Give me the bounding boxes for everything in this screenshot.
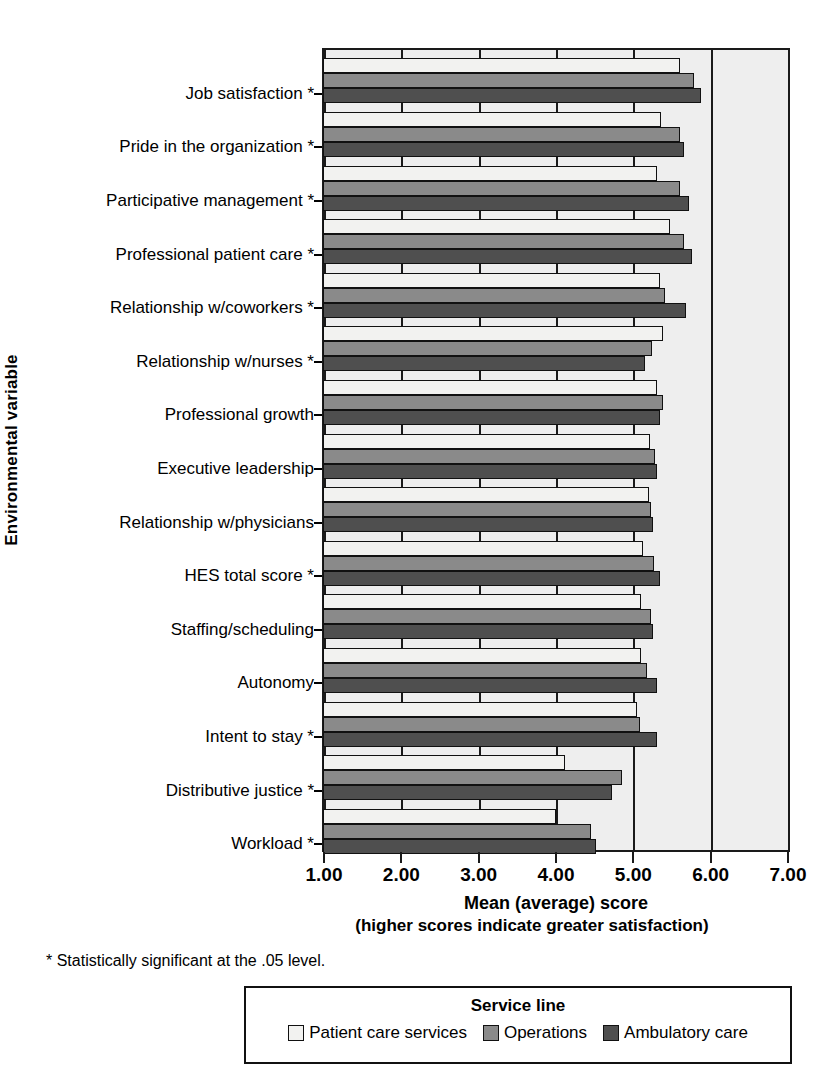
y-axis-tick [314, 575, 322, 577]
plot-area [322, 48, 790, 852]
bar [323, 770, 622, 785]
bar [323, 380, 657, 395]
bar [323, 166, 657, 181]
bar [323, 464, 657, 479]
category-label: Relationship w/physicians [119, 514, 314, 532]
bar [323, 702, 637, 717]
x-axis-tick [632, 852, 634, 863]
x-axis-tick-label: 7.00 [770, 864, 807, 886]
y-axis-tick [314, 468, 322, 470]
y-axis-tick [314, 790, 322, 792]
bar [323, 556, 654, 571]
x-axis-tick [323, 852, 325, 863]
bar [323, 249, 692, 264]
category-label: Job satisfaction * [185, 85, 314, 103]
legend-swatch-icon [288, 1025, 304, 1041]
bar [323, 717, 640, 732]
legend: Service line Patient care servicesOperat… [244, 986, 792, 1064]
bar [323, 303, 686, 318]
category-label: Distributive justice * [166, 782, 314, 800]
x-axis-tick [710, 852, 712, 863]
bar [323, 449, 655, 464]
x-axis-tick-label: 5.00 [615, 864, 652, 886]
bar [323, 663, 647, 678]
bar [323, 88, 701, 103]
bar [323, 824, 591, 839]
bar [323, 410, 660, 425]
bar [323, 785, 612, 800]
bar [323, 234, 684, 249]
y-axis-tick [314, 200, 322, 202]
bar [323, 678, 657, 693]
y-axis-tick [314, 682, 322, 684]
legend-title: Service line [246, 996, 790, 1016]
legend-item-label: Patient care services [309, 1023, 467, 1043]
category-label: Intent to stay * [205, 728, 314, 746]
y-axis-title: Environmental variable [2, 300, 22, 600]
bar [323, 395, 663, 410]
bar [323, 571, 660, 586]
category-label: Relationship w/coworkers * [110, 299, 314, 317]
x-axis-tick [787, 852, 789, 863]
bar [323, 73, 694, 88]
bar-chart-figure: Environmental variable Job satisfaction … [0, 0, 838, 1081]
y-axis-tick [314, 414, 322, 416]
y-axis-tick [314, 307, 322, 309]
bar [323, 624, 653, 639]
x-axis-tick-label: 3.00 [460, 864, 497, 886]
x-axis-tick [400, 852, 402, 863]
legend-swatch-icon [483, 1025, 499, 1041]
bar [323, 196, 689, 211]
bar [323, 219, 670, 234]
x-axis-tick-label: 4.00 [538, 864, 575, 886]
y-axis-tick [314, 254, 322, 256]
bar [323, 326, 663, 341]
x-axis-tick-label: 1.00 [306, 864, 343, 886]
y-axis-tick [314, 361, 322, 363]
legend-item[interactable]: Patient care services [288, 1023, 467, 1043]
category-label: Executive leadership [157, 460, 314, 478]
bar [323, 487, 649, 502]
y-axis-tick [314, 146, 322, 148]
x-axis-tick-labels: 1.002.003.004.005.006.007.00 [322, 864, 790, 888]
category-label: Professional growth [165, 406, 314, 424]
x-axis-subtitle: (higher scores indicate greater satisfac… [232, 916, 832, 936]
category-label-column: Job satisfaction *Pride in the organizat… [40, 48, 322, 852]
x-axis-ticks [322, 852, 790, 864]
category-label: HES total score * [185, 567, 314, 585]
bar [323, 181, 680, 196]
bar [323, 755, 565, 770]
legend-item-label: Operations [504, 1023, 587, 1043]
bar [323, 127, 680, 142]
bar [323, 434, 650, 449]
category-label: Workload * [231, 835, 314, 853]
gridline-7.00 [788, 50, 790, 850]
legend-item[interactable]: Operations [483, 1023, 587, 1043]
category-label: Autonomy [237, 674, 314, 692]
bar [323, 609, 651, 624]
category-label: Pride in the organization * [119, 138, 314, 156]
x-axis-tick [478, 852, 480, 863]
bar [323, 142, 684, 157]
legend-swatch-icon [603, 1025, 619, 1041]
legend-item-label: Ambulatory care [624, 1023, 748, 1043]
bar [323, 648, 641, 663]
y-axis-tick [314, 522, 322, 524]
x-axis-title: Mean (average) score [322, 893, 790, 914]
bar [323, 288, 665, 303]
category-label: Staffing/scheduling [171, 621, 314, 639]
y-axis-tick [314, 629, 322, 631]
category-label: Relationship w/nurses * [136, 353, 314, 371]
x-axis-tick-label: 2.00 [383, 864, 420, 886]
bar [323, 273, 660, 288]
category-label: Participative management * [106, 192, 314, 210]
bar [323, 341, 652, 356]
bar [323, 58, 680, 73]
y-axis-tick [314, 843, 322, 845]
bar [323, 112, 661, 127]
significance-footnote: * Statistically significant at the .05 l… [46, 952, 325, 970]
legend-items: Patient care servicesOperationsAmbulator… [246, 1023, 790, 1043]
x-axis-tick [555, 852, 557, 863]
legend-item[interactable]: Ambulatory care [603, 1023, 748, 1043]
bar [323, 517, 653, 532]
